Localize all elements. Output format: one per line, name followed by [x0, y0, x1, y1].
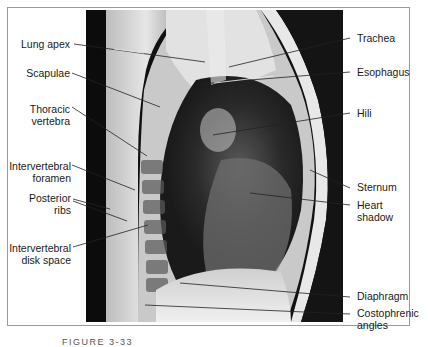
label-text: Scapulae	[26, 67, 70, 79]
label-diaphragm: Diaphragm	[357, 290, 408, 302]
label-text: angles	[357, 319, 419, 331]
label-text: Thoracic	[30, 103, 70, 115]
label-scapulae: Scapulae	[26, 67, 70, 79]
label-text: Intervertebral	[9, 242, 71, 254]
label-text: Intervertebral	[9, 160, 71, 172]
label-intervertebral-foramen: Intervertebral foramen	[9, 160, 71, 184]
label-text: foramen	[9, 172, 71, 184]
label-trachea: Trachea	[357, 32, 395, 44]
label-text: Costophrenic	[357, 307, 419, 319]
label-lung-apex: Lung apex	[21, 38, 70, 50]
label-heart-shadow: Heart shadow	[357, 199, 393, 223]
label-text: Heart	[357, 199, 393, 211]
label-sternum: Sternum	[357, 181, 397, 193]
figure-caption: FIGURE 3-33	[62, 337, 133, 347]
label-text: shadow	[357, 211, 393, 223]
chest-xray-image	[86, 10, 343, 322]
label-posterior-ribs: Posterior ribs	[29, 192, 71, 216]
label-text: ribs	[29, 204, 71, 216]
label-intervertebral-disk-space: Intervertebral disk space	[9, 242, 71, 266]
label-esophagus: Esophagus	[357, 66, 410, 78]
label-text: Diaphragm	[357, 290, 408, 302]
label-text: Lung apex	[21, 38, 70, 50]
label-text: Sternum	[357, 181, 397, 193]
label-text: Esophagus	[357, 66, 410, 78]
label-text: Trachea	[357, 32, 395, 44]
label-thoracic-vertebra: Thoracic vertebra	[30, 103, 70, 127]
label-text: Posterior	[29, 192, 71, 204]
label-hili: Hili	[357, 107, 372, 119]
label-text: disk space	[9, 254, 71, 266]
label-costophrenic-angles: Costophrenic angles	[357, 307, 419, 331]
label-text: Hili	[357, 107, 372, 119]
label-text: vertebra	[30, 115, 70, 127]
